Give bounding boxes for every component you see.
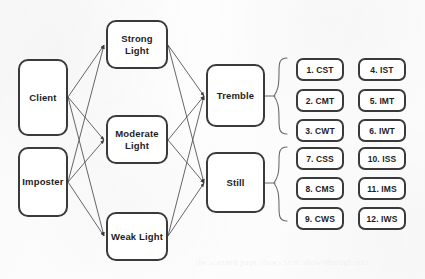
node-moderate-light[interactable]: Moderate Light xyxy=(106,115,168,164)
outcome-label-10-iss: 10. ISS xyxy=(366,154,399,164)
outcome-label-3-cwt: 3. CWT xyxy=(303,126,336,136)
node-strong-light-label: Strong Light xyxy=(108,33,166,57)
edge-weak-light-to-tremble xyxy=(168,96,204,236)
outcome-label-5-imt: 5. IMT xyxy=(368,96,397,106)
outcome-box-12-iws[interactable]: 12. IWS xyxy=(358,207,406,230)
outcome-box-10-iss[interactable]: 10. ISS xyxy=(358,147,406,170)
outcome-box-3-cwt[interactable]: 3. CWT xyxy=(296,119,344,142)
outcome-label-8-cms: 8. CMS xyxy=(304,184,337,194)
outcome-box-5-imt[interactable]: 5. IMT xyxy=(358,89,406,112)
node-client[interactable]: Client xyxy=(18,59,68,136)
outcome-label-6-iwt: 6. IWT xyxy=(367,126,397,136)
node-weak-light-label: Weak Light xyxy=(109,231,165,243)
node-still[interactable]: Still xyxy=(206,152,265,213)
diagram-canvas: the scanned page shows faint show-throug… xyxy=(0,0,425,279)
edge-imposter-to-weak-light xyxy=(68,182,104,236)
curly-brace-still xyxy=(274,147,287,221)
outcome-box-6-iwt[interactable]: 6. IWT xyxy=(358,119,406,142)
node-still-label: Still xyxy=(224,177,246,189)
node-moderate-light-label: Moderate Light xyxy=(108,128,166,152)
node-imposter-label: Imposter xyxy=(20,176,65,188)
outcome-label-11-ims: 11. IMS xyxy=(365,184,399,194)
outcome-box-4-ist[interactable]: 4. IST xyxy=(358,58,406,81)
node-imposter[interactable]: Imposter xyxy=(18,147,68,217)
outcome-box-11-ims[interactable]: 11. IMS xyxy=(358,177,406,200)
outcome-box-9-cws[interactable]: 9. CWS xyxy=(296,207,344,230)
node-tremble[interactable]: Tremble xyxy=(206,64,265,127)
outcome-box-1-cst[interactable]: 1. CST xyxy=(296,58,344,81)
edge-client-to-strong-light xyxy=(68,45,104,97)
outcome-label-7-css: 7. CSS xyxy=(304,154,336,164)
outcome-box-8-cms[interactable]: 8. CMS xyxy=(296,177,344,200)
node-tremble-label: Tremble xyxy=(215,90,256,102)
edge-strong-light-to-tremble xyxy=(168,45,204,96)
outcome-label-4-ist: 4. IST xyxy=(368,65,395,75)
outcome-box-2-cmt[interactable]: 2. CMT xyxy=(296,89,344,112)
outcome-label-12-iws: 12. IWS xyxy=(365,214,400,224)
node-client-label: Client xyxy=(27,92,58,104)
outcome-label-9-cws: 9. CWS xyxy=(303,214,337,224)
edge-weak-light-to-still xyxy=(168,183,204,236)
node-weak-light[interactable]: Weak Light xyxy=(106,212,168,261)
outcome-label-2-cmt: 2. CMT xyxy=(304,96,336,106)
node-strong-light[interactable]: Strong Light xyxy=(106,20,168,69)
outcome-label-1-cst: 1. CST xyxy=(304,65,335,75)
outcome-box-7-css[interactable]: 7. CSS xyxy=(296,147,344,170)
curly-brace-tremble xyxy=(274,58,287,134)
edge-strong-light-to-still xyxy=(168,45,204,183)
